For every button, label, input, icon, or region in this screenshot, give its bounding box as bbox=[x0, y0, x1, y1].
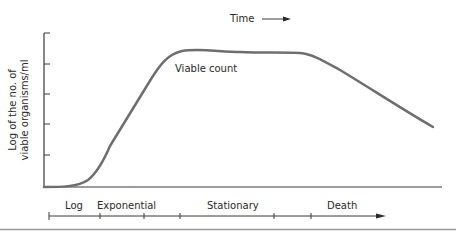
y-axis-label-line1: Log of the no. of bbox=[7, 69, 18, 151]
phase-timeline bbox=[49, 212, 386, 220]
timeline-arrow-icon bbox=[376, 214, 386, 219]
phase-label-log: Log bbox=[65, 200, 83, 211]
y-axis-label: Log of the no. of viable organisms/ml bbox=[7, 60, 30, 161]
phase-label-stationary: Stationary bbox=[207, 200, 259, 211]
y-axis-label-line2: viable organisms/ml bbox=[19, 60, 30, 161]
viable-count-label: Viable count bbox=[175, 63, 237, 74]
viable-count-curve bbox=[44, 50, 433, 187]
phase-label-exponential: Exponential bbox=[97, 200, 156, 211]
growth-curve-chart: Time Log of the no. of viable organisms/… bbox=[0, 0, 456, 233]
y-axis bbox=[44, 33, 50, 187]
time-arrow-icon bbox=[262, 17, 291, 22]
time-label: Time bbox=[229, 13, 254, 24]
phase-label-death: Death bbox=[327, 200, 357, 211]
